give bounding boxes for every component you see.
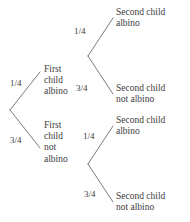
- probability-tree-diagram: 1/4 3/4 First child albino First child n…: [0, 0, 190, 222]
- probability-label-second-not-albino-upper: 3/4: [76, 83, 88, 93]
- leaf-line: Second child: [116, 115, 165, 126]
- probability-label-first-not-albino: 3/4: [10, 135, 22, 145]
- leaf-line: albino: [116, 126, 165, 137]
- leaf-second-child-not-albino-lower: Second child not albino: [116, 191, 165, 213]
- node-first-child-albino: First child albino: [44, 64, 68, 98]
- node-line: albino: [44, 154, 68, 165]
- probability-label-second-albino-upper: 1/4: [74, 26, 86, 36]
- node-line: First: [44, 64, 68, 75]
- leaf-line: not albino: [116, 202, 165, 213]
- leaf-line: Second child: [116, 191, 165, 202]
- leaf-second-child-albino-lower: Second child albino: [116, 115, 165, 137]
- node-line: albino: [44, 86, 68, 97]
- node-first-child-not-albino: First child not albino: [44, 120, 68, 165]
- edge-first-albino-to-second-not-albino: [88, 56, 113, 94]
- leaf-second-child-albino-upper: Second child albino: [116, 7, 165, 29]
- probability-label-first-albino: 1/4: [10, 78, 22, 88]
- leaf-line: Second child: [116, 7, 165, 18]
- node-line: child: [44, 131, 68, 142]
- node-line: First: [44, 120, 68, 131]
- leaf-second-child-not-albino-upper: Second child not albino: [116, 83, 165, 105]
- leaf-line: Second child: [116, 83, 165, 94]
- node-line: not: [44, 142, 68, 153]
- leaf-line: not albino: [116, 94, 165, 105]
- probability-label-second-not-albino-lower: 3/4: [84, 189, 96, 199]
- probability-label-second-albino-lower: 1/4: [83, 131, 95, 141]
- edge-first-albino-to-second-albino: [88, 18, 113, 56]
- leaf-line: albino: [116, 18, 165, 29]
- node-line: child: [44, 75, 68, 86]
